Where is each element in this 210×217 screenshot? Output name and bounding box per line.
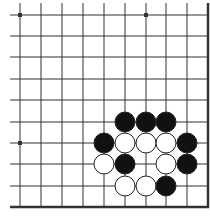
black-stone bbox=[115, 154, 135, 174]
star-point-icon bbox=[18, 141, 22, 145]
white-stone bbox=[115, 176, 135, 196]
star-point-icon bbox=[18, 13, 22, 17]
black-stone bbox=[156, 176, 176, 196]
white-stone bbox=[136, 176, 156, 196]
white-stone bbox=[94, 154, 114, 174]
white-stone bbox=[156, 154, 176, 174]
grid-lines bbox=[10, 3, 209, 208]
white-stone bbox=[115, 133, 135, 153]
black-stone bbox=[115, 112, 135, 132]
black-stone bbox=[177, 133, 197, 153]
white-stone bbox=[136, 133, 156, 153]
black-stone bbox=[136, 112, 156, 132]
black-stone bbox=[177, 154, 197, 174]
black-stone bbox=[156, 112, 176, 132]
white-stone bbox=[156, 133, 176, 153]
go-board bbox=[0, 0, 210, 217]
black-stone bbox=[94, 133, 114, 153]
star-point-icon bbox=[144, 13, 148, 17]
